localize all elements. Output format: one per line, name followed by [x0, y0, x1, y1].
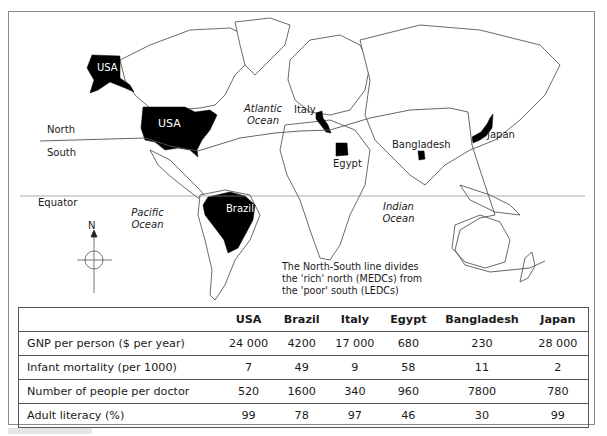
- development-indicators-table: USA Brazil Italy Egypt Bangladesh Japan …: [18, 307, 589, 428]
- header-usa: USA: [217, 308, 272, 332]
- row-label: GNP per person ($ per year): [19, 332, 218, 356]
- cell: 340: [323, 380, 378, 404]
- header-brazil: Brazil: [272, 308, 323, 332]
- cell: 11: [430, 356, 525, 380]
- label-north: North: [47, 124, 75, 136]
- label-brazil: Brazil: [226, 203, 254, 215]
- compass-north-label: N: [88, 220, 95, 232]
- cell: 17 000: [323, 332, 378, 356]
- cell: 7800: [430, 380, 525, 404]
- cell: 680: [378, 332, 430, 356]
- africa-outline: [280, 120, 370, 260]
- label-usa-alaska: USA: [97, 62, 118, 74]
- table-row: Infant mortality (per 1000) 7 49 9 58 11…: [19, 356, 589, 380]
- cell: 99: [526, 404, 589, 428]
- label-south: South: [47, 147, 76, 159]
- header-empty: [19, 308, 218, 332]
- row-label: Infant mortality (per 1000): [19, 356, 218, 380]
- cell: 97: [323, 404, 378, 428]
- bangladesh-shape: [418, 151, 425, 160]
- header-egypt: Egypt: [378, 308, 430, 332]
- cell: 49: [272, 356, 323, 380]
- header-japan: Japan: [526, 308, 589, 332]
- compass-icon: [77, 230, 112, 293]
- australia-outline: [452, 215, 510, 268]
- cell: 46: [378, 404, 430, 428]
- label-equator: Equator: [38, 197, 77, 209]
- table-row: Adult literacy (%) 99 78 97 46 30 99: [19, 404, 589, 428]
- cell: 30: [430, 404, 525, 428]
- cell: 780: [526, 380, 589, 404]
- cell: 7: [217, 356, 272, 380]
- label-pacific-ocean: Pacific Ocean: [130, 207, 165, 231]
- cell: 28 000: [526, 332, 589, 356]
- table-row: Number of people per doctor 520 1600 340…: [19, 380, 589, 404]
- row-label: Adult literacy (%): [19, 404, 218, 428]
- label-usa-mainland: USA: [158, 118, 181, 130]
- label-atlantic-ocean: Atlantic Ocean: [243, 103, 283, 127]
- canada-outline: [120, 28, 255, 110]
- cell: 78: [272, 404, 323, 428]
- cell: 960: [378, 380, 430, 404]
- cell: 9: [323, 356, 378, 380]
- header-italy: Italy: [323, 308, 378, 332]
- row-label: Number of people per doctor: [19, 380, 218, 404]
- cell: 24 000: [217, 332, 272, 356]
- header-bangladesh: Bangladesh: [430, 308, 525, 332]
- cell: 230: [430, 332, 525, 356]
- cell: 99: [217, 404, 272, 428]
- map-caption: The North-South line divides the 'rich' …: [282, 261, 422, 297]
- cell: 4200: [272, 332, 323, 356]
- label-italy: Italy: [294, 104, 316, 116]
- europe-outline: [288, 35, 370, 115]
- egypt-shape: [336, 143, 348, 156]
- label-egypt: Egypt: [333, 158, 362, 170]
- cell: 1600: [272, 380, 323, 404]
- asia-outline: [360, 25, 560, 185]
- label-bangladesh: Bangladesh: [392, 139, 451, 151]
- cell: 58: [378, 356, 430, 380]
- cell: 520: [217, 380, 272, 404]
- central-america-outline: [150, 150, 205, 198]
- table-row: GNP per person ($ per year) 24 000 4200 …: [19, 332, 589, 356]
- table-header-row: USA Brazil Italy Egypt Bangladesh Japan: [19, 308, 589, 332]
- label-indian-ocean: Indian Ocean: [381, 201, 416, 225]
- label-japan: Japan: [487, 129, 515, 141]
- cell: 2: [526, 356, 589, 380]
- usa-mainland-shape: [141, 107, 217, 157]
